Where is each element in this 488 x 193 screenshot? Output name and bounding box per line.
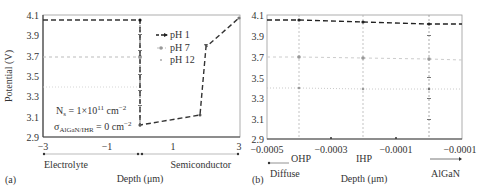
region-electrolyte: Electrolyte — [44, 159, 88, 170]
svg-text:−3: −3 — [38, 141, 49, 152]
figure: 4.1 3.9 3.7 3.5 3.3 3.1 2.9 Potential (V… — [0, 0, 488, 193]
panel-a-plot-area — [43, 15, 240, 137]
panel-a-x-ticks: −3 −1 1 3 — [38, 141, 242, 152]
region-algan: AlGaN — [431, 168, 460, 179]
svg-text:−0.0001: −0.0001 — [443, 144, 476, 155]
panel-a-y-ticks: 4.1 3.9 3.7 3.5 3.3 3.1 2.9 — [27, 10, 40, 143]
svg-text:1: 1 — [171, 141, 176, 152]
panel-a-label: (a) — [5, 174, 16, 186]
panel-a-legend: pH 1 pH 7 pH 12 — [156, 29, 195, 65]
svg-text:3.1: 3.1 — [252, 114, 265, 125]
legend-ph7: pH 7 — [170, 42, 190, 53]
panel-b-label: (b) — [252, 174, 264, 186]
svg-text:3.1: 3.1 — [27, 112, 40, 123]
svg-text:3.7: 3.7 — [27, 51, 40, 62]
svg-text:3: 3 — [237, 141, 242, 152]
marker-ihp: IHP — [356, 153, 373, 164]
panel-b-y-ticks: 4.1 3.9 3.7 3.5 3.3 3.1 2.9 — [252, 10, 265, 145]
svg-text:3.9: 3.9 — [252, 31, 265, 42]
panel-b-xlabel: Depth (μm) — [341, 173, 388, 185]
legend-ph12: pH 12 — [170, 54, 195, 65]
svg-text:3.3: 3.3 — [27, 91, 40, 102]
annotation-ns: Ns = 1×1011 cm−2 — [56, 104, 127, 118]
svg-text:3.9: 3.9 — [27, 30, 40, 41]
region-semiconductor: Semiconductor — [170, 159, 231, 170]
panel-a-xlabel: Depth (μm) — [117, 173, 164, 185]
annotation-sigma: σAlGaN/IHR = 0 cm−2 — [54, 120, 132, 134]
svg-text:3.7: 3.7 — [252, 52, 265, 63]
panel-b-plot-area — [267, 15, 462, 139]
svg-text:−1: −1 — [102, 141, 113, 152]
series-ph12-b — [267, 88, 462, 89]
svg-text:3.5: 3.5 — [27, 71, 40, 82]
svg-text:−0.0001: −0.0001 — [379, 144, 412, 155]
panel-a: 4.1 3.9 3.7 3.5 3.3 3.1 2.9 Potential (V… — [3, 10, 242, 186]
legend-ph1: pH 1 — [170, 29, 190, 40]
region-diffuse: Diffuse — [270, 168, 300, 179]
svg-text:4.1: 4.1 — [27, 10, 40, 21]
svg-text:3.3: 3.3 — [252, 93, 265, 104]
svg-text:4.1: 4.1 — [252, 10, 265, 21]
marker-ohp: OHP — [291, 153, 311, 164]
svg-text:−0.0005: −0.0005 — [250, 144, 283, 155]
svg-text:3.5: 3.5 — [252, 73, 265, 84]
panel-a-ylabel: Potential (V) — [3, 50, 15, 102]
svg-text:−0.0003: −0.0003 — [314, 144, 347, 155]
panel-b: 4.1 3.9 3.7 3.5 3.3 3.1 2.9 −0.0005 −0.0… — [250, 10, 476, 186]
